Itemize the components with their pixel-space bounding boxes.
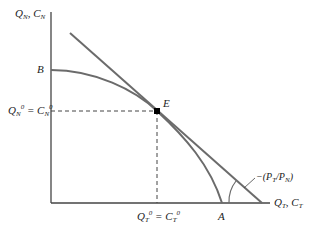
equilibrium-point xyxy=(154,108,160,114)
point-b-label: B xyxy=(37,64,44,75)
slope-angle-arc xyxy=(229,181,236,203)
point-e-label: E xyxy=(163,98,170,109)
x-axis-label: QT, CT xyxy=(274,197,303,210)
production-possibility-curve xyxy=(51,70,222,203)
point-a-label: A xyxy=(218,211,225,222)
slope-label: −(PT/PN) xyxy=(256,172,293,184)
y-equilibrium-label: QN0 = CN0 xyxy=(8,104,53,118)
y-axis-label: QN, CN xyxy=(15,8,45,21)
x-equilibrium-label: QT0 = CT0 xyxy=(137,210,180,224)
price-line xyxy=(70,33,262,203)
slope-leader xyxy=(244,178,255,188)
